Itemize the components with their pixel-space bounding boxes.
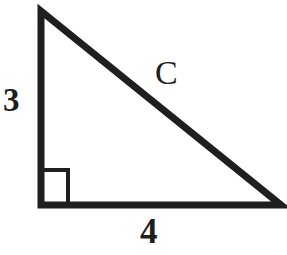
horizontal-leg-label: 4 (140, 214, 158, 249)
vertical-leg-label: 3 (3, 84, 20, 117)
hypotenuse-label: C (155, 56, 178, 90)
figure-canvas: 3 4 C (0, 0, 287, 255)
